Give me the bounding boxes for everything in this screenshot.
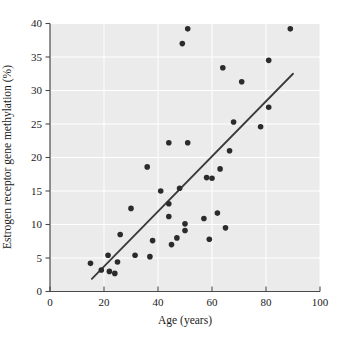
y-tick-label: 15 xyxy=(31,185,43,197)
y-tick-label: 5 xyxy=(37,252,43,264)
y-axis-title: Estrogen receptor gene methylation (%) xyxy=(1,65,14,249)
data-point xyxy=(215,210,221,216)
data-point xyxy=(166,214,172,220)
data-point xyxy=(180,41,186,47)
data-point xyxy=(201,216,207,222)
data-point xyxy=(169,242,175,248)
y-tick-label: 20 xyxy=(31,151,43,163)
x-axis-title: Age (years) xyxy=(158,314,212,327)
data-point xyxy=(204,175,210,181)
data-point xyxy=(107,269,113,275)
data-point xyxy=(209,175,215,181)
y-tick-label: 25 xyxy=(31,118,43,130)
y-tick-label: 35 xyxy=(31,51,43,63)
data-point xyxy=(207,236,213,242)
y-tick-label: 30 xyxy=(31,84,43,96)
x-tick-label: 20 xyxy=(99,296,111,308)
x-tick-label: 80 xyxy=(261,296,273,308)
data-point xyxy=(144,164,150,170)
data-point xyxy=(128,206,134,212)
data-point xyxy=(266,58,272,64)
data-point xyxy=(166,201,172,207)
data-point xyxy=(112,271,118,277)
y-tick-label: 0 xyxy=(37,285,43,297)
data-point xyxy=(182,221,188,227)
data-point xyxy=(266,104,272,110)
y-tick-label: 10 xyxy=(31,218,43,230)
data-point xyxy=(227,148,233,154)
x-tick-label: 60 xyxy=(207,296,219,308)
data-point xyxy=(174,235,180,241)
data-point xyxy=(105,253,111,259)
y-tick-label: 40 xyxy=(31,17,43,29)
data-point xyxy=(150,238,156,244)
data-point xyxy=(115,259,121,265)
data-point xyxy=(185,140,191,146)
data-point xyxy=(132,253,138,259)
x-tick-label: 100 xyxy=(312,296,329,308)
data-point xyxy=(217,166,223,172)
data-point xyxy=(231,119,237,125)
x-tick-label: 0 xyxy=(47,296,53,308)
x-tick-label: 40 xyxy=(153,296,165,308)
data-point xyxy=(185,26,191,32)
data-point xyxy=(158,188,164,194)
data-point xyxy=(88,261,94,267)
data-point xyxy=(239,79,245,85)
scatter-plot-figure: 0510152025303540020406080100 Age (years)… xyxy=(0,0,341,340)
data-point xyxy=(166,140,172,146)
data-point xyxy=(223,225,229,231)
data-point xyxy=(117,232,123,238)
data-point xyxy=(288,26,294,32)
scatter-chart: 0510152025303540020406080100 Age (years)… xyxy=(0,0,341,340)
data-point xyxy=(147,254,153,260)
data-point xyxy=(177,186,183,192)
data-point xyxy=(220,65,226,71)
data-point xyxy=(182,228,188,234)
data-point xyxy=(258,124,264,130)
data-point xyxy=(99,267,105,273)
